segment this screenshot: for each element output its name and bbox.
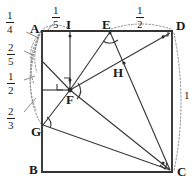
dotted-arcs	[30, 24, 181, 171]
one-half-left-numerator: 1	[7, 71, 15, 84]
vertex-label-B: B	[29, 163, 38, 176]
leader-one-half-left	[24, 76, 35, 80]
unit-right-denominator	[184, 101, 190, 102]
measure-label-two-thirds: 2 3	[7, 106, 15, 131]
one-quarter-denominator: 4	[6, 23, 14, 35]
vertex-label-G: G	[31, 125, 41, 138]
vertex-label-A: A	[30, 22, 39, 35]
vertex-label-C: C	[177, 165, 186, 178]
measure-label-one-quarter: 1 4	[6, 10, 14, 35]
one-half-top-denominator: 2	[136, 18, 144, 30]
vertex-label-E: E	[102, 18, 111, 31]
construction-lines	[43, 31, 170, 170]
one-half-top-numerator: 1	[136, 5, 144, 18]
unit-right-numerator: 1	[184, 90, 190, 101]
measure-label-one-fifth: 1 5	[52, 5, 60, 30]
angle-arc-at-E	[103, 40, 118, 43]
dot-tick-I	[69, 35, 72, 38]
two-fifths-numerator: 2	[7, 42, 15, 55]
leader-two-fifths	[24, 51, 33, 55]
dot-E-top	[109, 32, 112, 35]
vertex-label-H: H	[113, 66, 123, 79]
segment-EF	[70, 32, 110, 90]
two-thirds-numerator: 2	[7, 106, 15, 119]
vertex-label-I: I	[66, 18, 71, 31]
segment-FD	[70, 33, 170, 90]
one-fifth-denominator: 5	[52, 18, 60, 30]
measure-label-unit-right: 1	[184, 90, 190, 102]
dot-near-D	[162, 36, 165, 39]
one-half-left-denominator: 2	[7, 84, 15, 96]
geometry-figure: A B C D E F G H I 1 4 1 5 1 2 2 5 1 2 2 …	[0, 0, 196, 188]
segment-EC	[110, 32, 170, 170]
measure-label-one-half-top: 1 2	[136, 5, 144, 30]
vertex-label-D: D	[176, 19, 185, 32]
arc-right-DC	[174, 33, 181, 171]
two-thirds-denominator: 3	[7, 119, 15, 131]
one-fifth-numerator: 1	[52, 5, 60, 18]
measure-label-two-fifths: 2 5	[7, 42, 15, 67]
dot-near-C	[162, 162, 165, 165]
vertex-label-F: F	[66, 93, 74, 106]
segment-FC	[70, 90, 170, 170]
dot-tick-IF	[69, 79, 72, 82]
two-fifths-denominator: 5	[7, 55, 15, 67]
intersection-dots	[68, 32, 165, 165]
segment-GC	[43, 125, 170, 170]
right-angle-at-F	[57, 84, 63, 90]
measure-label-one-half-left: 1 2	[7, 71, 15, 96]
one-quarter-numerator: 1	[6, 10, 14, 23]
